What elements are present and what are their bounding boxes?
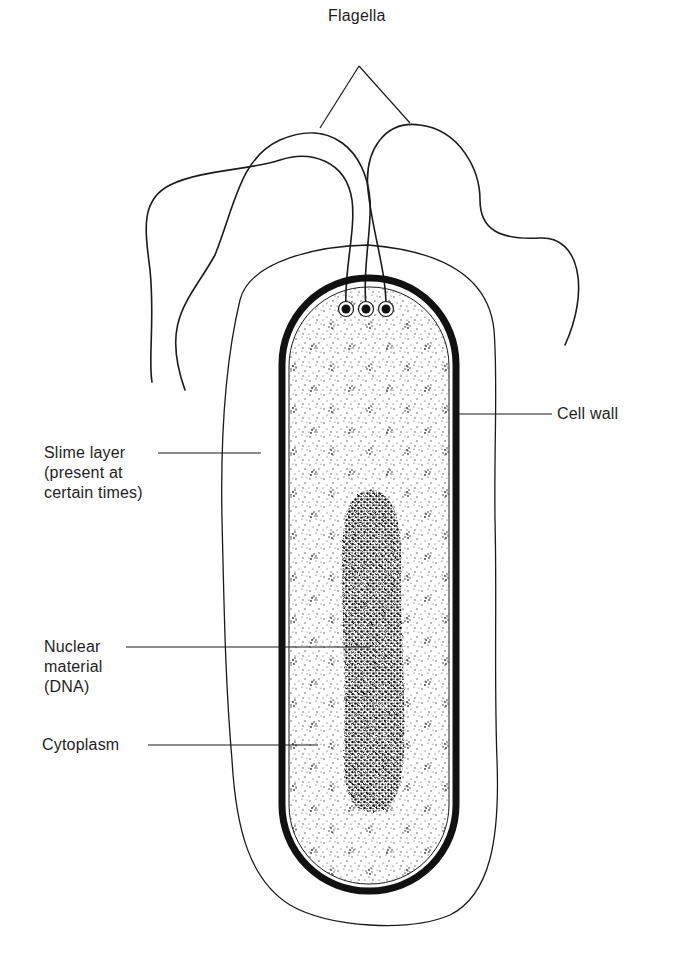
label-slime-layer: Slime layer (present at certain times) [44,443,143,503]
nuclear-material-line1: Nuclear [44,637,103,657]
slime-layer-line1: Slime layer [44,443,143,463]
basal-bodies [339,302,394,317]
label-cell-wall: Cell wall [557,404,618,424]
flagella-pointer [320,66,410,128]
nucleoid [342,490,404,812]
slime-layer-line2: (present at [44,463,143,483]
label-flagella: Flagella [328,6,386,26]
label-cytoplasm: Cytoplasm [42,735,119,755]
nuclear-material-line3: (DNA) [44,677,103,697]
nuclear-material-line2: material [44,657,103,677]
slime-layer-line3: certain times) [44,483,143,503]
label-nuclear-material: Nuclear material (DNA) [44,637,103,697]
